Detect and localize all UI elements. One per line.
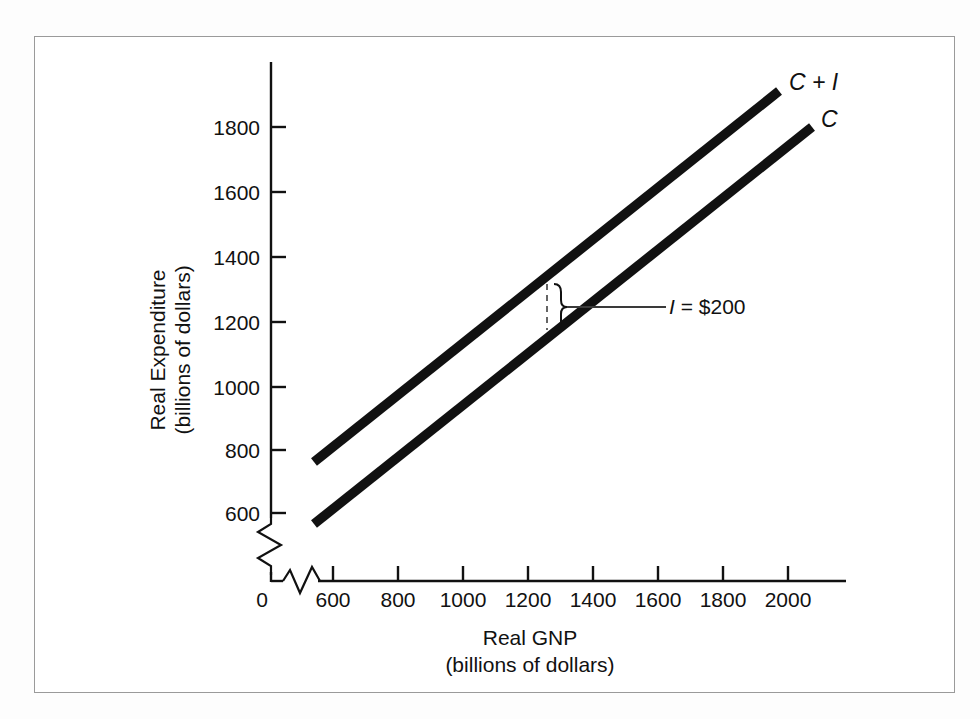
chart-canvas: 1800 1600 1400 1200 1000 800 600 0 600 8… [0, 0, 980, 719]
series-line-c [314, 127, 812, 524]
x-tick-label-2000: 2000 [765, 588, 812, 611]
x-tick-label-1600: 1600 [635, 588, 682, 611]
x-axis-title: Real GNP (billions of dollars) [445, 626, 614, 676]
x-tick-label-1000: 1000 [440, 588, 487, 611]
x-axis-title-line2: (billions of dollars) [445, 653, 614, 676]
x-tick-label-1200: 1200 [505, 588, 552, 611]
series-line-c-plus-i [314, 91, 779, 462]
x-tick-label-group: 0 600 800 1000 1200 1400 1600 1800 2000 [256, 588, 811, 611]
annotation-investment-gap: I = $200 [547, 284, 746, 330]
annotation-value: = $200 [675, 295, 746, 318]
y-tick-group [271, 127, 286, 513]
y-tick-label-1200: 1200 [213, 311, 260, 334]
series-label-c: C [821, 106, 838, 132]
y-tick-label-800: 800 [225, 439, 260, 462]
y-tick-label-1800: 1800 [213, 116, 260, 139]
y-tick-label-1000: 1000 [213, 376, 260, 399]
x-tick-group [333, 566, 788, 581]
y-tick-label-group: 1800 1600 1400 1200 1000 800 600 [213, 116, 260, 525]
y-tick-label-1400: 1400 [213, 246, 260, 269]
x-tick-label-1400: 1400 [570, 588, 617, 611]
x-tick-label-600: 600 [315, 588, 350, 611]
y-axis-break-icon [258, 518, 281, 575]
x-axis-break-icon [283, 567, 320, 593]
x-axis-title-line1: Real GNP [483, 626, 578, 649]
x-tick-label-800: 800 [380, 588, 415, 611]
y-axis-title: Real Expenditure (billions of dollars) [146, 265, 194, 434]
x-tick-label-1800: 1800 [700, 588, 747, 611]
annotation-text: I = $200 [669, 295, 746, 318]
y-tick-label-600: 600 [225, 502, 260, 525]
x-tick-label-0: 0 [256, 588, 268, 611]
y-axis-title-line1: Real Expenditure [146, 269, 169, 430]
series-label-c-plus-i: C + I [789, 69, 839, 95]
y-tick-label-1600: 1600 [213, 181, 260, 204]
figure-root: 1800 1600 1400 1200 1000 800 600 0 600 8… [0, 0, 980, 719]
y-axis-title-line2: (billions of dollars) [171, 265, 194, 434]
